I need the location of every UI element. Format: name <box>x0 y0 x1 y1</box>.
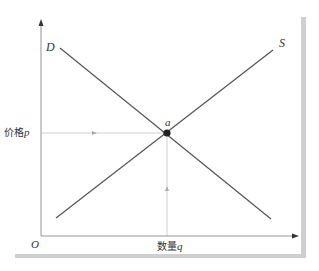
x-axis-arrow-icon <box>292 234 299 239</box>
frame-shadow-right <box>301 17 306 258</box>
y-axis-arrow-icon <box>39 19 44 26</box>
y-axis-label-text: 价格 <box>4 127 24 138</box>
quantity-guide-arrow-icon <box>165 186 169 191</box>
x-axis-label-text: 数量 <box>157 241 177 252</box>
x-axis-label-var: q <box>177 240 183 252</box>
supply-curve-label: S <box>279 37 285 49</box>
x-axis-label: 数量q <box>157 241 183 252</box>
frame-shadow-bottom <box>15 254 306 258</box>
equilibrium-point-label: a <box>165 117 171 128</box>
demand-curve-label: D <box>46 41 55 53</box>
origin-label: O <box>31 239 39 250</box>
y-axis-label-var: p <box>24 126 30 138</box>
y-axis-label: 价格p <box>4 127 30 138</box>
price-guide-arrow-icon <box>92 131 97 135</box>
equilibrium-point <box>163 129 170 136</box>
